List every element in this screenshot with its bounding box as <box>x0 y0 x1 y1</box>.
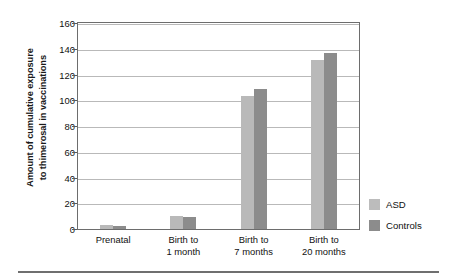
bar-controls-0 <box>113 226 126 229</box>
legend-item-asd: ASD <box>369 196 449 213</box>
bar-group <box>100 23 126 229</box>
bar-asd-2 <box>241 96 254 229</box>
y-axis-tick-mark <box>72 49 77 50</box>
bar-asd-1 <box>170 216 183 229</box>
bar-group <box>311 23 337 229</box>
legend-swatch-icon-asd <box>369 199 380 210</box>
bar-group <box>241 23 267 229</box>
bar-controls-3 <box>324 53 337 229</box>
legend: ASD Controls <box>369 196 449 238</box>
y-axis-tick-labels: 020406080100120140160 <box>44 22 75 230</box>
bar-asd-0 <box>100 225 113 229</box>
legend-label-controls: Controls <box>386 220 422 231</box>
y-axis-tick-mark <box>72 229 77 230</box>
bar-group <box>170 23 196 229</box>
bar-groups <box>78 23 359 229</box>
legend-swatch-icon-controls <box>369 220 380 231</box>
y-axis-tick-mark <box>72 100 77 101</box>
y-axis-tick-mark <box>72 152 77 153</box>
legend-item-controls: Controls <box>369 217 449 234</box>
legend-label-asd: ASD <box>386 199 406 210</box>
bar-controls-1 <box>183 217 196 229</box>
x-axis-tick-labels: PrenatalBirth to1 monthBirth to7 monthsB… <box>78 234 359 268</box>
y-axis-tick-mark <box>72 23 77 24</box>
y-axis-tick-mark <box>72 178 77 179</box>
y-axis-tick-mark <box>72 75 77 76</box>
bar-chart-figure: Amount of cumulative exposure to thimero… <box>0 0 453 278</box>
y-axis-tick-mark <box>72 126 77 127</box>
x-axis-tick-label: Birth to20 months <box>282 234 366 258</box>
bar-controls-2 <box>254 89 267 229</box>
y-axis-tick-mark <box>72 203 77 204</box>
y-axis-title-line-1: Amount of cumulative exposure <box>23 49 36 188</box>
bottom-divider <box>18 271 439 273</box>
bar-asd-3 <box>311 60 324 229</box>
